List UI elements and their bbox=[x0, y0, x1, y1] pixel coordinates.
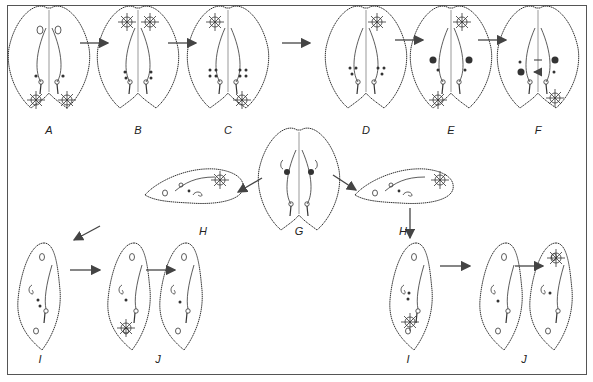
stage-j-left-drawing-2 bbox=[160, 243, 202, 350]
stage-h-right-drawing bbox=[355, 169, 453, 204]
stage-label-b: B bbox=[134, 124, 141, 136]
stage-label-e: E bbox=[447, 124, 454, 136]
stage-a-drawing bbox=[8, 6, 89, 109]
stage-i-right-drawing bbox=[390, 243, 432, 350]
stage-label-j-left: J bbox=[155, 353, 161, 365]
stage-label-i-right: I bbox=[406, 353, 409, 365]
stage-g-drawing bbox=[258, 128, 339, 230]
stage-d-drawing bbox=[325, 6, 406, 108]
stage-b-drawing bbox=[97, 6, 178, 108]
stage-label-h-left: H bbox=[199, 225, 207, 237]
stage-label-j-right: J bbox=[521, 353, 527, 365]
conjugation-diagram bbox=[0, 0, 593, 382]
stage-label-g: G bbox=[295, 225, 304, 237]
stage-i-left-drawing bbox=[18, 243, 60, 350]
stage-j-right-drawing-2 bbox=[530, 243, 572, 350]
stage-j-left-drawing-1 bbox=[108, 243, 150, 350]
stage-h-left-drawing bbox=[145, 169, 243, 204]
stage-label-h-right: H bbox=[399, 225, 407, 237]
stage-label-i-left: I bbox=[38, 353, 41, 365]
stage-label-a: A bbox=[45, 124, 52, 136]
stage-label-f: F bbox=[535, 124, 542, 136]
stage-e-drawing bbox=[410, 6, 491, 109]
stage-f-drawing bbox=[497, 6, 578, 108]
stage-label-d: D bbox=[362, 124, 370, 136]
stage-label-c: C bbox=[224, 124, 232, 136]
stage-j-right-drawing-1 bbox=[480, 243, 522, 350]
stage-c-drawing bbox=[187, 6, 268, 109]
